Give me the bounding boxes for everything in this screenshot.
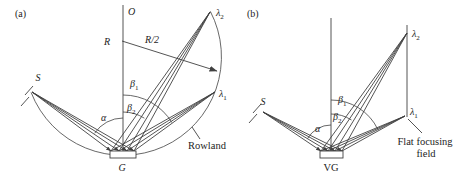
beta-subscript: 2 bbox=[338, 117, 342, 125]
beta-subscript: 1 bbox=[135, 84, 139, 92]
rowland-label: Rowland bbox=[188, 140, 227, 151]
lambda-subscript: 1 bbox=[414, 112, 418, 120]
lambda-subscript: 2 bbox=[416, 34, 420, 42]
flat-field-label-line1: Flat focusing bbox=[397, 136, 453, 147]
half-radius-label: R/2 bbox=[144, 34, 159, 45]
grating-rect-a bbox=[110, 151, 136, 158]
source-slit-marks-b bbox=[249, 104, 261, 123]
beta-subscript: 1 bbox=[343, 100, 347, 108]
source-slit-marks-a bbox=[21, 86, 33, 106]
slit-tick bbox=[21, 97, 29, 106]
ray bbox=[127, 12, 210, 151]
figure: (a) O R R/2 S bbox=[0, 0, 468, 178]
source-label-b: S bbox=[261, 96, 266, 107]
source-label-a: S bbox=[36, 72, 41, 83]
wavelength-label-lambda2-a: λ2 bbox=[215, 7, 224, 21]
grating-label-b: VG bbox=[323, 162, 339, 173]
diffracted-ray-bundle-lambda2-a bbox=[111, 12, 210, 151]
ray bbox=[111, 12, 210, 151]
panel-b: (b) S bbox=[247, 8, 453, 173]
ray bbox=[134, 12, 210, 151]
angle-label-alpha-a: α bbox=[101, 112, 107, 123]
lambda-subscript: 2 bbox=[220, 13, 224, 21]
angle-label-beta1-b: β1 bbox=[337, 94, 347, 108]
radius-label: R bbox=[103, 36, 110, 47]
angle-label-beta2-b: β2 bbox=[332, 111, 342, 125]
half-radius-arrow bbox=[122, 41, 217, 71]
angle-label-beta2-a: β2 bbox=[126, 102, 136, 116]
ray bbox=[32, 92, 127, 151]
rowland-leader-line bbox=[192, 127, 200, 139]
figure-canvas: (a) O R R/2 S bbox=[0, 0, 468, 178]
ray bbox=[263, 112, 321, 151]
incident-ray-bundle-a bbox=[32, 92, 134, 151]
panel-a: (a) O R R/2 S bbox=[15, 5, 227, 173]
beta-subscript: 2 bbox=[132, 108, 136, 116]
wavelength-label-lambda2-b: λ2 bbox=[411, 28, 420, 42]
incident-ray-bundle-b bbox=[263, 112, 342, 151]
flat-field-label-line2: field bbox=[416, 148, 436, 159]
angle-label-alpha-b: α bbox=[315, 123, 321, 134]
slit-tick bbox=[249, 114, 257, 123]
wavelength-label-lambda1-a: λ1 bbox=[218, 88, 227, 102]
lambda-subscript: 1 bbox=[223, 94, 227, 102]
center-of-curvature-label: O bbox=[128, 6, 135, 17]
ray bbox=[263, 112, 342, 151]
wavelength-label-lambda1-b: λ1 bbox=[409, 106, 418, 120]
grating-rect-b bbox=[320, 151, 343, 158]
grating-label-a: G bbox=[118, 162, 125, 173]
ray bbox=[263, 112, 335, 151]
panel-b-tag: (b) bbox=[247, 8, 259, 20]
flat-field-leader-line bbox=[408, 119, 422, 133]
panel-a-tag: (a) bbox=[15, 8, 26, 20]
rowland-circle-arc bbox=[31, 11, 221, 155]
ray bbox=[32, 92, 134, 151]
angle-label-beta1-a: β1 bbox=[129, 78, 139, 92]
ray bbox=[32, 92, 111, 151]
